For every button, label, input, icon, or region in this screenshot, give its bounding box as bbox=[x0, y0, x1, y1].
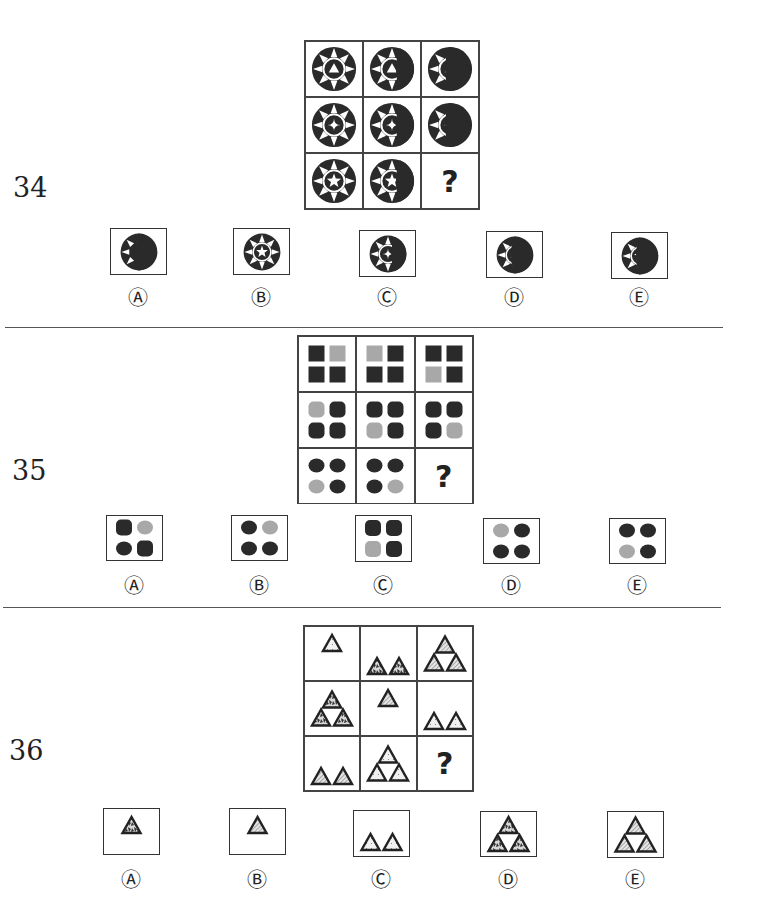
missing-cell: ? bbox=[415, 448, 473, 504]
option-b-label[interactable]: Ⓑ bbox=[249, 284, 273, 308]
triangle-figure bbox=[305, 737, 359, 790]
grid-cell bbox=[415, 336, 473, 392]
option-a-label[interactable]: Ⓐ bbox=[126, 284, 150, 308]
triangle-figure bbox=[481, 812, 536, 856]
emblem-figure bbox=[620, 236, 660, 276]
puzzle-grid-35: ? bbox=[297, 335, 474, 504]
grid-cell bbox=[363, 97, 421, 153]
question-mark: ? bbox=[436, 746, 453, 781]
grid-cell bbox=[415, 392, 473, 448]
option-e-figure[interactable] bbox=[609, 518, 666, 564]
option-d-label[interactable]: Ⓓ bbox=[496, 866, 520, 890]
missing-cell: ? bbox=[421, 153, 479, 209]
emblem-figure bbox=[368, 234, 408, 274]
option-e-figure[interactable] bbox=[611, 232, 668, 279]
option-b-figure[interactable] bbox=[231, 515, 288, 561]
emblem-figure bbox=[426, 45, 474, 93]
four-shape-figure bbox=[357, 337, 413, 391]
question-mark: ? bbox=[435, 459, 452, 494]
four-shape-figure bbox=[610, 519, 665, 563]
grid-cell bbox=[356, 336, 414, 392]
emblem-figure bbox=[310, 45, 358, 93]
grid-cell bbox=[298, 392, 356, 448]
option-a-figure[interactable] bbox=[103, 808, 160, 855]
grid-cell bbox=[304, 681, 360, 736]
option-b-label[interactable]: Ⓑ bbox=[247, 572, 271, 596]
section-divider bbox=[3, 607, 721, 608]
grid-cell bbox=[417, 626, 473, 681]
emblem-figure bbox=[495, 235, 535, 275]
grid-cell bbox=[421, 97, 479, 153]
option-d-figure[interactable] bbox=[483, 518, 540, 564]
grid-cell bbox=[305, 41, 363, 97]
option-e-label[interactable]: Ⓔ bbox=[627, 284, 651, 308]
triangle-figure bbox=[608, 812, 663, 857]
emblem-figure bbox=[119, 232, 159, 272]
four-shape-figure bbox=[232, 516, 287, 560]
grid-cell bbox=[304, 626, 360, 681]
triangle-figure bbox=[418, 627, 472, 680]
option-d-figure[interactable] bbox=[480, 811, 537, 857]
puzzle-grid-36: ? bbox=[303, 625, 474, 792]
four-shape-figure bbox=[299, 337, 355, 391]
grid-cell bbox=[360, 681, 416, 736]
option-a-label[interactable]: Ⓐ bbox=[122, 572, 146, 596]
section-divider bbox=[5, 327, 723, 328]
four-shape-figure bbox=[416, 337, 472, 391]
emblem-figure bbox=[368, 45, 416, 93]
option-e-label[interactable]: Ⓔ bbox=[623, 866, 647, 890]
triangle-figure bbox=[104, 809, 159, 854]
option-c-label[interactable]: Ⓒ bbox=[369, 866, 393, 890]
grid-cell bbox=[360, 626, 416, 681]
triangle-figure bbox=[354, 811, 409, 856]
question-number: 36 bbox=[9, 735, 43, 766]
triangle-figure bbox=[305, 627, 359, 680]
question-number: 34 bbox=[13, 172, 47, 203]
option-d-label[interactable]: Ⓓ bbox=[502, 284, 526, 308]
grid-cell bbox=[305, 153, 363, 209]
option-c-figure[interactable] bbox=[353, 810, 410, 857]
option-c-label[interactable]: Ⓒ bbox=[375, 284, 399, 308]
option-d-label[interactable]: Ⓓ bbox=[499, 572, 523, 596]
four-shape-figure bbox=[357, 449, 413, 503]
option-b-figure[interactable] bbox=[229, 808, 286, 855]
four-shape-figure bbox=[357, 393, 413, 447]
emblem-figure bbox=[242, 232, 282, 272]
grid-cell bbox=[304, 736, 360, 791]
grid-cell bbox=[363, 41, 421, 97]
option-d-figure[interactable] bbox=[486, 231, 543, 278]
option-b-figure[interactable] bbox=[233, 228, 290, 275]
option-c-label[interactable]: Ⓒ bbox=[371, 572, 395, 596]
grid-cell bbox=[356, 448, 414, 504]
emblem-figure bbox=[310, 157, 358, 205]
four-shape-figure bbox=[356, 516, 411, 561]
grid-cell bbox=[305, 97, 363, 153]
grid-cell bbox=[421, 41, 479, 97]
triangle-figure bbox=[361, 737, 415, 790]
grid-cell bbox=[360, 736, 416, 791]
option-e-figure[interactable] bbox=[607, 811, 664, 858]
emblem-figure bbox=[426, 101, 474, 149]
question-mark: ? bbox=[441, 164, 458, 199]
four-shape-figure bbox=[299, 393, 355, 447]
emblem-figure bbox=[368, 101, 416, 149]
option-c-figure[interactable] bbox=[355, 515, 412, 562]
triangle-figure bbox=[361, 682, 415, 735]
missing-cell: ? bbox=[417, 736, 473, 791]
four-shape-figure bbox=[484, 519, 539, 563]
triangle-figure bbox=[361, 627, 415, 680]
grid-cell bbox=[363, 153, 421, 209]
option-e-label[interactable]: Ⓔ bbox=[625, 572, 649, 596]
four-shape-figure bbox=[416, 393, 472, 447]
option-c-figure[interactable] bbox=[359, 230, 416, 277]
option-b-label[interactable]: Ⓑ bbox=[245, 866, 269, 890]
grid-cell bbox=[356, 392, 414, 448]
emblem-figure bbox=[310, 101, 358, 149]
option-a-figure[interactable] bbox=[106, 515, 163, 561]
grid-cell bbox=[298, 336, 356, 392]
emblem-figure bbox=[368, 157, 416, 205]
grid-cell bbox=[298, 448, 356, 504]
option-a-label[interactable]: Ⓐ bbox=[119, 866, 143, 890]
triangle-figure bbox=[230, 809, 285, 854]
option-a-figure[interactable] bbox=[110, 228, 167, 275]
